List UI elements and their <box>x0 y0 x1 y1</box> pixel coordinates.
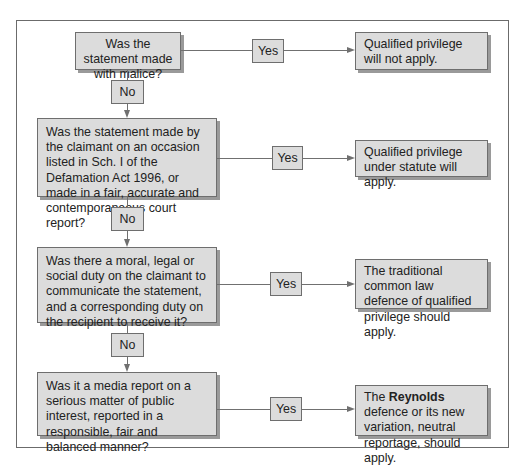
arrow-right-icon <box>347 406 355 412</box>
question-3-duty: Was there a moral, legal or social duty … <box>37 247 217 323</box>
question-2-statutory-occasion: Was the statement made by the claimant o… <box>37 118 217 197</box>
yes-label-4: Yes <box>270 397 302 421</box>
connector-q3-yes <box>217 284 270 285</box>
outcome-3: The traditional common law defence of qu… <box>355 259 488 309</box>
connector-q4-yes <box>217 409 270 410</box>
connector-yes3-outcome <box>302 284 347 285</box>
connector-q2-yes <box>217 158 272 159</box>
yes-label-1: Yes <box>252 39 284 63</box>
outcome-2: Qualified privilege under statute will a… <box>355 140 488 177</box>
arrow-down-icon <box>124 110 130 118</box>
connector-q1-no <box>127 70 128 80</box>
outcome-4-prefix: The <box>364 390 389 404</box>
connector-q1-yes <box>181 50 252 51</box>
connector-yes1-outcome <box>284 50 347 51</box>
arrow-right-icon <box>347 155 355 161</box>
arrow-right-icon <box>347 281 355 287</box>
connector-q2-no <box>127 197 128 207</box>
outcome-4-case-name: Reynolds <box>389 390 445 404</box>
connector-yes2-outcome <box>303 158 347 159</box>
arrow-right-icon <box>347 47 355 53</box>
outcome-4-suffix: defence or its new variation, neutral re… <box>364 405 465 465</box>
no-label-3: No <box>111 333 144 357</box>
connector-q3-no <box>127 323 128 333</box>
question-1-malice: Was the statement made with malice? <box>75 32 181 70</box>
arrow-down-icon <box>124 364 130 372</box>
no-label-2: No <box>111 207 144 231</box>
connector-yes4-outcome <box>302 409 347 410</box>
arrow-down-icon <box>124 239 130 247</box>
outcome-4-reynolds: The Reynolds defence or its new variatio… <box>355 385 488 436</box>
no-label-1: No <box>111 80 144 104</box>
yes-label-3: Yes <box>270 272 302 296</box>
outcome-1: Qualified privilege will not apply. <box>355 32 488 70</box>
question-4-media-report: Was it a media report on a serious matte… <box>37 372 217 436</box>
yes-label-2: Yes <box>272 146 303 170</box>
